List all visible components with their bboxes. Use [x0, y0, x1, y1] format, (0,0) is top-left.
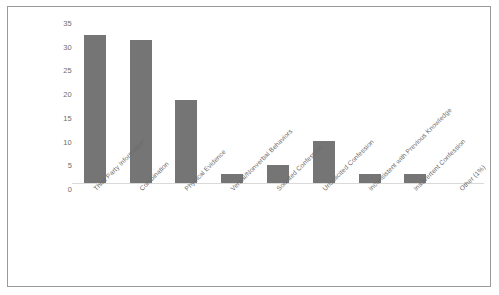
y-axis-tick: 25 — [38, 66, 72, 75]
bars-layer — [72, 21, 468, 183]
x-label-slot: Other (1%) — [438, 185, 484, 285]
x-label-slot: Verbal/Nonverbal Behaviors — [209, 185, 255, 285]
y-axis: 05101520253035 — [38, 17, 72, 193]
x-label-slot: Physical Evidence — [164, 185, 210, 285]
y-axis-tick: 10 — [38, 137, 72, 146]
y-axis-tick: 15 — [38, 113, 72, 122]
y-axis-tick: 35 — [38, 19, 72, 28]
x-label-slot: Third Party Information — [72, 185, 118, 285]
bar-slot — [72, 21, 118, 183]
bar[interactable] — [175, 100, 197, 183]
bar[interactable] — [84, 35, 106, 183]
x-label-slot: Combination — [118, 185, 164, 285]
bar[interactable] — [130, 40, 152, 183]
bar-slot — [164, 21, 210, 183]
y-axis-tick: 30 — [38, 42, 72, 51]
y-axis-tick: 0 — [38, 185, 72, 194]
x-label-slot: Unsolicited Confession — [301, 185, 347, 285]
x-label-slot: Inconsistent with Previous Knowledge — [347, 185, 393, 285]
x-label-slot: Inadvertent Confession — [392, 185, 438, 285]
y-axis-tick: 20 — [38, 90, 72, 99]
x-label-slot: Solicited Confession — [255, 185, 301, 285]
bar-chart: 05101520253035 Third Party InformationCo… — [8, 7, 490, 286]
y-axis-tick: 5 — [38, 161, 72, 170]
x-axis-labels: Third Party InformationCombinationPhysic… — [72, 185, 468, 285]
chart-frame: 05101520253035 Third Party InformationCo… — [7, 6, 491, 287]
